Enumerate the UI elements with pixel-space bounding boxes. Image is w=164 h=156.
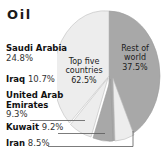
pie-callout-top-five-value: 62.5% bbox=[59, 76, 109, 85]
legend-value-united-arab-emirates: 9.3% bbox=[6, 110, 72, 120]
pie-callout-rest-value: 37.5% bbox=[112, 63, 158, 72]
legend-item-iran: Iran 8.5% bbox=[6, 139, 78, 149]
legend-item-kuwait: Kuwait 9.2% bbox=[6, 123, 78, 133]
legend-label-iraq: Iraq bbox=[6, 74, 25, 84]
page-title: Oil bbox=[7, 8, 32, 22]
legend-label-kuwait: Kuwait bbox=[6, 122, 39, 132]
pie-callout-top-five-line1: Top five bbox=[59, 57, 109, 66]
pie-callout-rest-line2: world bbox=[112, 53, 158, 62]
legend-item-united-arab-emirates: United Arab Emirates 9.3% bbox=[6, 91, 72, 120]
pie-callout-top-five-countries: Top five countries 62.5% bbox=[59, 57, 109, 85]
oil-pie-infographic: Oil Saudi Arabia 24.8% I bbox=[0, 0, 164, 156]
pie-callout-rest-line1: Rest of bbox=[112, 44, 158, 53]
legend-value-kuwait: 9.2% bbox=[42, 122, 64, 132]
legend-value-iran: 8.5% bbox=[28, 138, 50, 148]
legend-value-iraq: 10.7% bbox=[28, 74, 55, 84]
legend-label-iran: Iran bbox=[6, 138, 25, 148]
legend-label-united-arab-emirates: United Arab Emirates bbox=[6, 91, 72, 110]
pie-callout-rest-of-world: Rest of world 37.5% bbox=[112, 44, 158, 72]
pie-callout-top-five-line2: countries bbox=[59, 66, 109, 75]
